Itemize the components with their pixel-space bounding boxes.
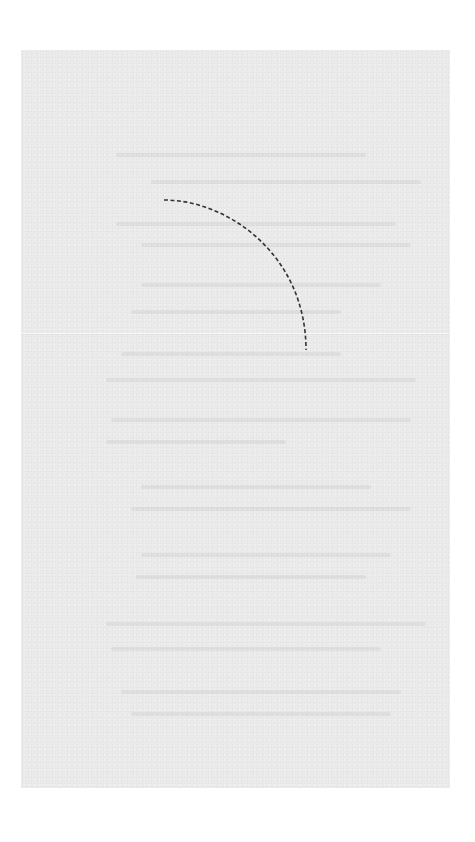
dashed-arc [0,0,475,842]
